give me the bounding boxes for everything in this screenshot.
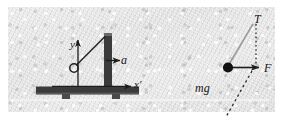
ground-line [14, 99, 269, 101]
weight-force-label: mg [195, 82, 210, 94]
figure-artwork [0, 0, 283, 128]
tension-line [228, 24, 253, 66]
cart-wheel-left [62, 94, 70, 99]
free-body-diagram-art [223, 24, 259, 117]
weight-dashed-line [226, 71, 252, 117]
net-force-label: F [264, 62, 271, 74]
cart-wheel-right [112, 94, 120, 99]
y-prime-axis-label: y′ [70, 39, 77, 50]
acceleration-label: a [121, 54, 127, 66]
local-axes [52, 40, 131, 86]
cart-base-shadow [36, 93, 139, 95]
mass-point [223, 62, 233, 72]
cart-base [36, 87, 139, 94]
cart-post-highlight [104, 33, 112, 36]
pendulum-string [76, 37, 105, 66]
tension-force-label: T [254, 13, 261, 25]
physics-figure: a x′ y′ T F mg [0, 0, 283, 128]
x-prime-axis-label: x′ [134, 79, 141, 90]
pendulum-bob [70, 64, 78, 72]
